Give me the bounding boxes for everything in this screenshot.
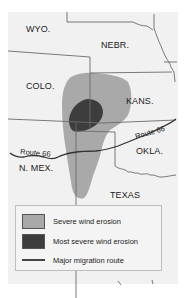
legend-item-severe: Severe wind erosion xyxy=(22,214,121,229)
legend-label-migration-route: Major migration route xyxy=(53,256,124,265)
legend-item-migration-route: Major migration route xyxy=(22,254,124,266)
state-label-nebr: NEBR. xyxy=(101,40,129,50)
legend-label-most-severe: Most severe wind erosion xyxy=(53,237,138,246)
state-label-okla: OKLA. xyxy=(136,146,163,156)
legend-item-most-severe: Most severe wind erosion xyxy=(22,234,138,249)
state-label-colo: COLO. xyxy=(26,81,55,91)
migration-route-swatch xyxy=(22,259,45,261)
state-label-kans: KANS. xyxy=(126,96,154,106)
map-legend: Severe wind erosion Most severe wind ero… xyxy=(15,205,162,271)
state-label-n-mex: N. MEX. xyxy=(19,163,53,173)
severe-erosion-swatch xyxy=(22,214,45,229)
state-label-wyo: WYO. xyxy=(26,24,50,34)
state-label-texas: TEXAS xyxy=(110,190,140,200)
legend-label-severe: Severe wind erosion xyxy=(53,217,121,226)
most-severe-erosion-swatch xyxy=(22,234,45,249)
